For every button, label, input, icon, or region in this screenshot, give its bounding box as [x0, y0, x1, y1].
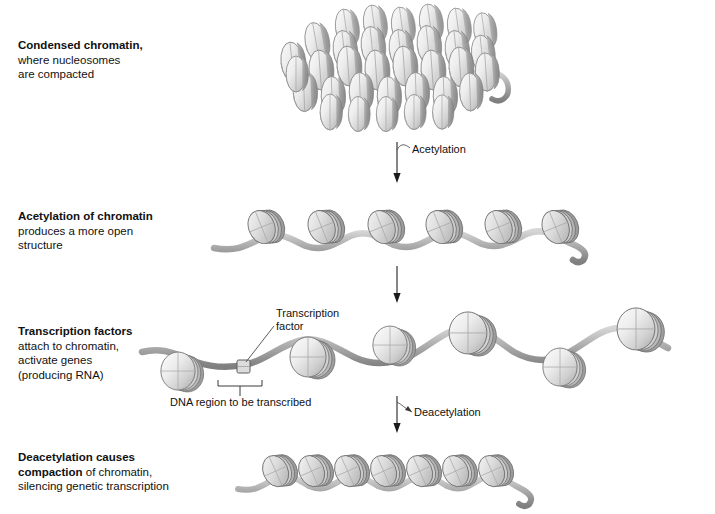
condensed-chromatin-cluster: [279, 2, 508, 131]
label-transcription-factor: Transcription factor: [276, 307, 339, 333]
caption-transcription-factors-heading: Transcription factors: [18, 324, 132, 339]
caption-condensed-chromatin-line2: are compacted: [18, 67, 143, 82]
caption-condensed-chromatin-heading: Condensed chromatin,: [18, 38, 143, 53]
arrow-acetylation: [393, 142, 410, 183]
label-deacetylation: Deacetylation: [414, 406, 481, 419]
dna-region-bracket: [218, 380, 262, 396]
caption-condensed-chromatin: Condensed chromatin, where nucleosomes a…: [18, 38, 143, 82]
caption-acetylation-line1: produces a more open: [18, 224, 153, 239]
arrow-unlabeled: [393, 266, 400, 303]
caption-acetylation-heading: Acetylation of chromatin: [18, 209, 153, 224]
caption-deacetylation-of-chromatin: of chromatin,: [83, 466, 153, 478]
label-transcription-factor-line1: Transcription: [276, 307, 339, 320]
caption-deacetylation-line2: compaction of chromatin,: [18, 465, 169, 480]
acetylated-chromatin-fiber: [214, 203, 585, 262]
label-dna-region-to-be-transcribed: DNA region to be transcribed: [170, 396, 311, 409]
caption-condensed-chromatin-line1: where nucleosomes: [18, 53, 143, 68]
caption-acetylation-line2: structure: [18, 238, 153, 253]
caption-transcription-factors-line3: (producing RNA): [18, 368, 132, 383]
arrow-deacetylation: [393, 396, 412, 433]
caption-deacetylation-compaction-word: compaction: [18, 466, 83, 478]
caption-transcription-factors-line2: activate genes: [18, 353, 132, 368]
label-transcription-factor-line2: factor: [276, 320, 339, 333]
figure-canvas: Condensed chromatin, where nucleosomes a…: [0, 0, 715, 514]
transcription-factor-marker: [237, 360, 250, 373]
caption-transcription-factors: Transcription factors attach to chromati…: [18, 324, 132, 382]
caption-deacetylation: Deacetylation causes compaction of chrom…: [18, 450, 169, 494]
caption-acetylation-of-chromatin: Acetylation of chromatin produces a more…: [18, 209, 153, 253]
label-acetylation: Acetylation: [412, 143, 466, 156]
transcription-active-fiber: [142, 308, 668, 396]
caption-deacetylation-line3: silencing genetic transcription: [18, 479, 169, 494]
caption-transcription-factors-line1: attach to chromatin,: [18, 339, 132, 354]
deacetylated-chromatin-fiber: [238, 448, 531, 506]
caption-deacetylation-heading: Deacetylation causes: [18, 450, 169, 465]
